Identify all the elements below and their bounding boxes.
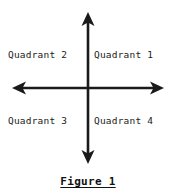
figure-container: Quadrant 2 Quadrant 1 Quadrant 3 Quadran… (0, 0, 176, 193)
quadrant-4-label: Quadrant 4 (94, 115, 153, 126)
figure-caption-text: Figure 1 (60, 175, 115, 188)
coordinate-axes-diagram (0, 0, 176, 176)
quadrant-3-label: Quadrant 3 (8, 115, 67, 126)
figure-caption: Figure 1 (0, 170, 176, 189)
quadrant-1-label: Quadrant 1 (94, 49, 153, 60)
quadrant-2-label: Quadrant 2 (8, 49, 67, 60)
